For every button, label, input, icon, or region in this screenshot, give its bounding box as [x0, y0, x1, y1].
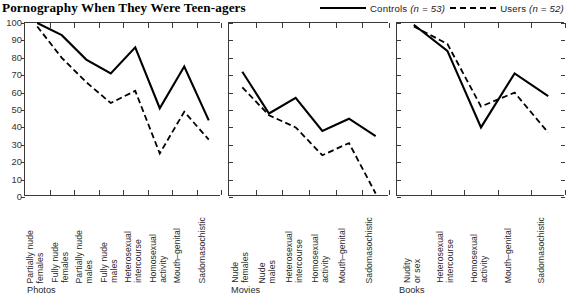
x-axis-tick	[221, 190, 222, 195]
y-axis-tick-label: 10	[12, 175, 22, 184]
series-line-users	[414, 26, 548, 132]
x-axis-tick-label: Homosexual activity	[311, 234, 330, 283]
x-axis-tick-label: Mouth–genital	[338, 228, 348, 283]
series-lines	[229, 23, 389, 197]
x-axis-tick-label: Fully nude females	[51, 242, 70, 283]
y-axis-tick-label: 50	[12, 105, 22, 114]
series-line-controls	[242, 72, 375, 136]
plot-frame-movies	[228, 22, 388, 196]
plot-frame-photos: 0102030405060708090100	[24, 22, 220, 196]
legend-item-users: Users (n = 52)	[450, 3, 564, 14]
chart-area: 0102030405060708090100Partially nude fem…	[0, 18, 566, 288]
y-axis-tick-label: 0	[17, 192, 22, 201]
plot-frame-books	[396, 22, 564, 196]
series-line-controls	[414, 25, 548, 128]
x-axis-tick-label: Heterosexual intercourse	[436, 231, 455, 283]
x-axis-tick	[389, 190, 390, 195]
y-axis-tick-label: 100	[6, 18, 22, 27]
series-line-users	[37, 26, 209, 153]
x-axis-tick-label: Homosexual activity	[149, 234, 168, 283]
series-lines	[397, 23, 565, 197]
x-axis-labels: Nude femalesNude malesHeterosexual inter…	[228, 197, 388, 283]
x-axis-tick	[221, 23, 222, 28]
x-axis-tick-label: Homosexual activity	[470, 234, 489, 283]
x-axis-tick-label: Partially nude males	[75, 230, 94, 283]
x-axis-tick-label: Sadomasochistic	[365, 217, 375, 283]
legend-item-controls: Controls (n = 53)	[320, 3, 445, 14]
x-axis-tick	[389, 23, 390, 28]
legend-label-controls: Controls (n = 53)	[370, 3, 445, 14]
y-axis-tick-label: 60	[12, 88, 22, 97]
y-axis-tick-label: 80	[12, 53, 22, 62]
legend-solid-line-icon	[320, 7, 366, 9]
legend-dashed-line-icon	[450, 7, 496, 9]
x-axis-tick-label: Nude females	[231, 252, 250, 283]
x-axis-tick-label: Sadomasochistic	[198, 217, 208, 283]
series-line-controls	[37, 23, 209, 120]
panel-label-books: Books	[399, 285, 425, 295]
y-axis-tick-label: 20	[12, 157, 22, 166]
x-axis-tick-label: Mouth–genital	[173, 228, 183, 283]
legend-label-users: Users (n = 52)	[500, 3, 564, 14]
x-axis-tick-label: Partially nude females	[26, 230, 45, 283]
x-axis-tick-label: Fully nude males	[100, 242, 119, 283]
x-axis-labels: Nudity or sexHeterosexual intercourseHom…	[396, 197, 564, 283]
y-axis-tick-label: 30	[12, 140, 22, 149]
page-title: Pornography When They Were Teen-agers	[2, 0, 342, 17]
chart-legend: Controls (n = 53) Users (n = 52)	[320, 1, 564, 15]
x-axis-tick-label: Mouth–genital	[504, 228, 514, 283]
x-axis-tick-label: Heterosexual intercourse	[124, 231, 143, 283]
series-lines	[25, 23, 221, 197]
x-axis-tick-label: Heterosexual intercourse	[285, 231, 304, 283]
x-axis-tick-label: Nudity or sex	[403, 258, 422, 283]
y-axis-tick-label: 70	[12, 70, 22, 79]
x-axis-labels: Partially nude femalesFully nude females…	[24, 197, 220, 283]
y-axis-tick-label: 40	[12, 123, 22, 132]
panel-label-movies: Movies	[231, 285, 260, 295]
panel-label-photos: Photos	[27, 285, 56, 295]
y-axis-tick-label: 90	[12, 36, 22, 45]
x-axis-tick-label: Nude males	[258, 260, 277, 283]
x-axis-tick-label: Sadomasochistic	[537, 217, 547, 283]
